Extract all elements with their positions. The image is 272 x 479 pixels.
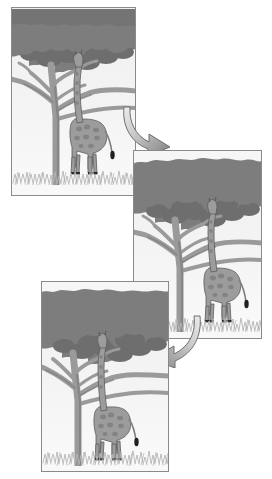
arrow-1	[122, 104, 176, 156]
panel-1-artwork	[11, 7, 136, 196]
illustration-stage: Giraffe browsing an acacia tree Giraffe …	[0, 0, 272, 479]
arrow-1-shape	[122, 104, 176, 156]
panel-3-artwork	[41, 281, 169, 472]
panel-1[interactable]	[11, 7, 136, 196]
panel-3[interactable]	[41, 281, 169, 472]
